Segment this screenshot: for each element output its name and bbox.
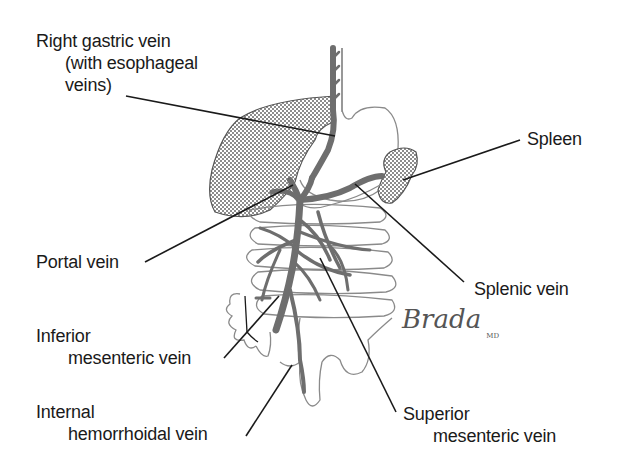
- label-right-gastric-vein: Right gastric vein (with esophageal vein…: [36, 30, 198, 96]
- label-right-gastric-vein-line1: Right gastric vein: [36, 30, 198, 52]
- label-superior-mesenteric-vein-line1: Superior: [403, 403, 556, 425]
- leader-splenic-vein: [355, 184, 464, 282]
- label-inferior-mesenteric-vein-line1: Inferior: [36, 325, 191, 347]
- signature-suffix: MD: [486, 332, 499, 340]
- artist-signature: Brada MD: [402, 304, 499, 334]
- inferior-mesenteric-vein: [290, 290, 304, 392]
- label-spleen: Spleen: [527, 128, 582, 150]
- label-right-gastric-vein-line2: (with esophageal: [36, 52, 198, 74]
- leader-superior-mesenteric-vein: [320, 258, 396, 412]
- label-internal-hemorrhoidal-vein-line1: Internal: [36, 401, 208, 423]
- label-internal-hemorrhoidal-vein-line2: hemorrhoidal vein: [36, 423, 208, 445]
- label-superior-mesenteric-vein: Superior mesenteric vein: [403, 403, 556, 447]
- sigmoid-marker: [245, 296, 258, 342]
- signature-name: Brada: [402, 304, 481, 334]
- label-inferior-mesenteric-vein: Inferior mesenteric vein: [36, 325, 191, 369]
- leader-internal-hemorrhoidal-vein: [246, 365, 292, 436]
- label-superior-mesenteric-vein-line2: mesenteric vein: [403, 425, 556, 447]
- label-splenic-vein: Splenic vein: [474, 278, 569, 300]
- label-internal-hemorrhoidal-vein: Internal hemorrhoidal vein: [36, 401, 208, 445]
- label-inferior-mesenteric-vein-line2: mesenteric vein: [36, 347, 191, 369]
- label-right-gastric-vein-line3: veins): [36, 74, 198, 96]
- leader-spleen: [403, 140, 520, 180]
- label-portal-vein: Portal vein: [36, 251, 119, 273]
